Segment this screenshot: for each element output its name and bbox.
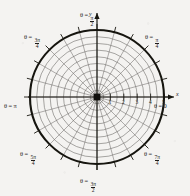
denominator: 4 [31,160,35,166]
fraction-pi-over-2: π2 [90,16,94,28]
theta-label-pi-over-4: θ = π4 [145,34,159,50]
r-tick-label-5: 5 [162,100,165,105]
polar-grid-figure: θ = 0 θ = π4 θ = π2 θ = 3π4 θ = π θ = 5π… [0,0,190,196]
theta-pi-4-text: θ = [145,33,154,40]
fraction-7pi-over-4: 7π4 [154,155,161,167]
fraction-5pi-over-4: 5π4 [30,155,37,167]
origin-dot [94,94,101,101]
denominator: 2 [90,21,94,27]
denominator: 2 [91,187,95,193]
theta-3pi-2-text: θ = [80,177,89,184]
r-tick-label-3: 3 [136,100,139,105]
x-axis-label: x [176,91,179,97]
fraction-pi-over-4: π4 [155,38,159,50]
theta-label-pi-over-2: θ = π2 [80,12,94,28]
theta-label-5pi-over-4: θ = 5π4 [20,151,37,167]
y-axis-label: y [89,11,92,17]
denominator: 4 [155,43,159,49]
theta-pi-value: π [13,102,16,109]
theta-label-3pi-over-2: θ = 3π2 [80,178,97,194]
theta-label-3pi-over-4: θ = 3π4 [24,34,41,50]
denominator: 4 [155,160,159,166]
theta-5pi-4-text: θ = [20,150,29,157]
fraction-3pi-over-4: 3π4 [34,38,41,50]
r-tick-label-1: 1 [109,100,112,105]
theta-7pi-4-text: θ = [144,150,153,157]
fraction-3pi-over-2: 3π2 [90,182,97,194]
r-tick-label-2: 2 [122,100,125,105]
theta-3pi-4-text: θ = [24,33,33,40]
theta-label-pi: θ = π [4,103,17,109]
y-axis-arrowhead [94,13,99,19]
x-axis-arrowhead [168,94,174,99]
theta-label-7pi-over-4: θ = 7π4 [144,151,161,167]
denominator: 4 [35,43,39,49]
r-tick-label-4: 4 [149,100,152,105]
